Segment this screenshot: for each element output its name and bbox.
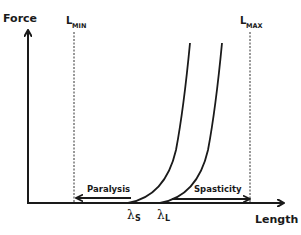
svg-text:MIN: MIN (72, 22, 86, 30)
svg-text:S: S (135, 214, 141, 223)
svg-text:λ: λ (157, 208, 165, 222)
y-axis-label: Force (3, 12, 37, 25)
force-length-diagram: Force Length L MIN L MAX Paralysis Spast… (0, 0, 301, 235)
lmax-label: L MAX (240, 15, 263, 30)
svg-text:MAX: MAX (246, 22, 263, 30)
svg-text:L: L (165, 214, 170, 223)
lambda-l-label: λ L (157, 208, 170, 223)
x-axis-label: Length (255, 213, 298, 226)
paralysis-label: Paralysis (87, 184, 130, 194)
spasticity-label: Spasticity (194, 184, 242, 194)
svg-text:λ: λ (127, 208, 135, 222)
curve-lambda-s (128, 43, 190, 203)
curve-lambda-l (160, 43, 222, 203)
lmin-label: L MIN (66, 15, 86, 30)
lambda-s-label: λ S (127, 208, 141, 223)
